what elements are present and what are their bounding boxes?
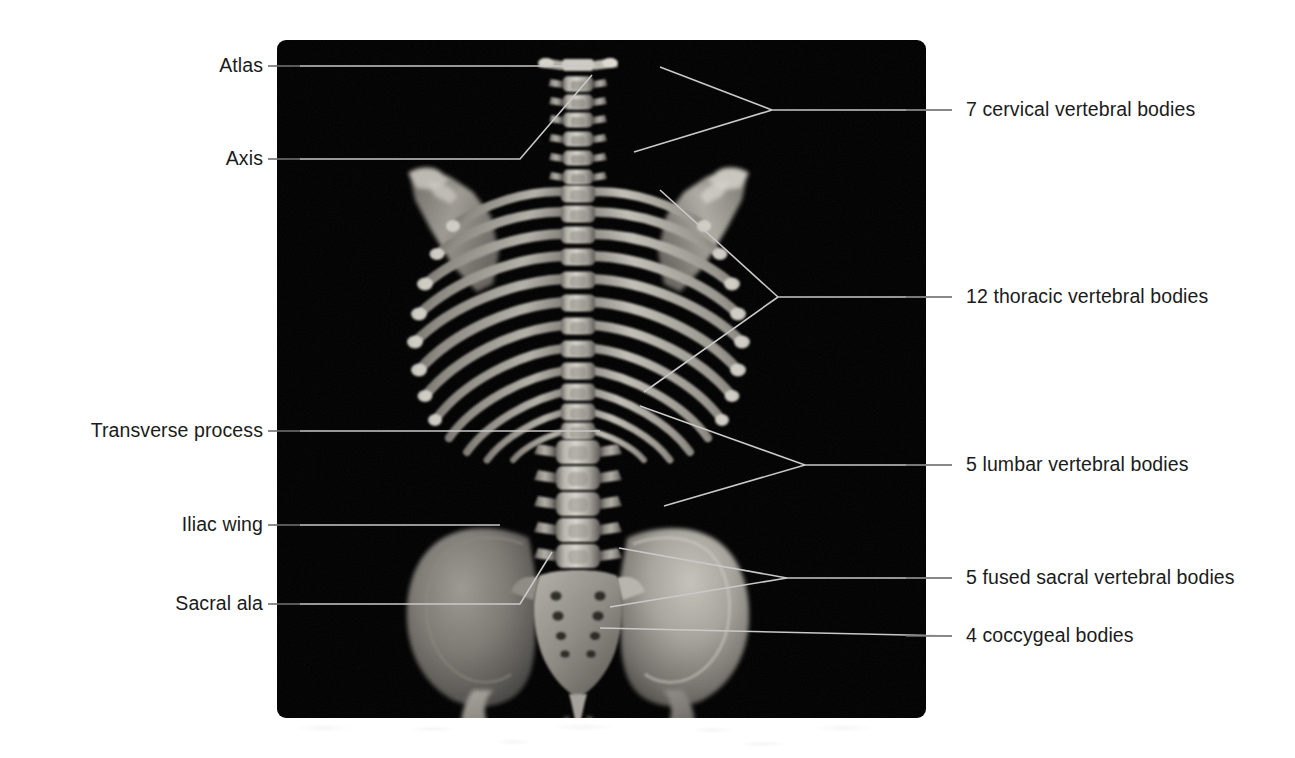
- ct-noise-overlay: [277, 40, 926, 718]
- label-axis: Axis: [226, 149, 263, 169]
- label-iliac-wing: Iliac wing: [182, 515, 263, 535]
- ct-image-panel: [277, 40, 926, 718]
- label-coccygeal-bodies: 4 coccygeal bodies: [966, 626, 1134, 646]
- label-fused-sacral-vertebral-bodies: 5 fused sacral vertebral bodies: [966, 568, 1235, 588]
- label-lumbar-vertebral-bodies: 5 lumbar vertebral bodies: [966, 455, 1189, 475]
- label-cervical-vertebral-bodies: 7 cervical vertebral bodies: [966, 100, 1195, 120]
- label-transverse-process: Transverse process: [91, 421, 263, 441]
- label-thoracic-vertebral-bodies: 12 thoracic vertebral bodies: [966, 287, 1208, 307]
- anatomy-figure: Atlas Axis Transverse process Iliac wing…: [0, 0, 1295, 758]
- label-atlas: Atlas: [219, 56, 263, 76]
- panel-reflection-artifact: [283, 720, 923, 754]
- skeleton-rendering: [277, 40, 926, 718]
- label-sacral-ala: Sacral ala: [175, 594, 263, 614]
